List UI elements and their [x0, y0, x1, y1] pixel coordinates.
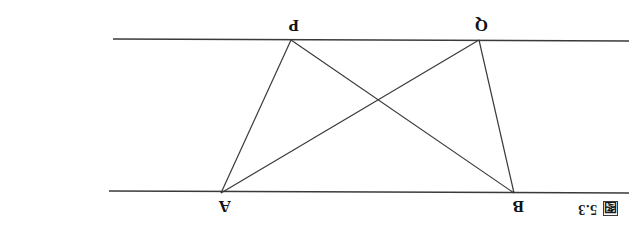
lower-parallel-line [113, 39, 629, 41]
segment-A-Q [221, 40, 479, 193]
scan-content-rotated: B A Q P 图 5.3 [0, 0, 636, 225]
vertex-label-Q: Q [475, 17, 488, 34]
bleed-through-text [0, 211, 636, 225]
segment-A-P [221, 40, 291, 193]
segment-B-Q [479, 40, 514, 193]
geometry-figure [0, 0, 636, 225]
segment-B-P [291, 40, 514, 193]
vertex-label-P: P [288, 17, 299, 34]
scanned-page: B A Q P 图 5.3 [0, 0, 636, 225]
upper-parallel-line [109, 191, 629, 193]
